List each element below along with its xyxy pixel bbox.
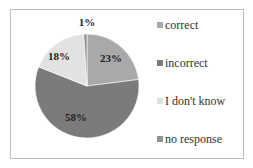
legend-label: I don't know	[165, 94, 225, 109]
legend-swatch	[157, 136, 163, 142]
legend-item-correct: correct	[157, 18, 198, 32]
legend-swatch	[157, 60, 163, 66]
slice-percent-label: 1%	[79, 16, 96, 28]
legend-swatch	[157, 22, 163, 28]
slice-percent-label: 23%	[100, 52, 122, 64]
legend-label: no response	[165, 132, 222, 147]
slice-percent-label: 18%	[48, 50, 70, 62]
slice-percent-label: 58%	[65, 111, 87, 123]
legend-item-incorrect: incorrect	[157, 56, 208, 70]
legend-swatch	[157, 98, 163, 104]
legend-item-no-response: no response	[157, 132, 222, 146]
legend-label: correct	[165, 18, 198, 33]
legend-label: incorrect	[165, 56, 208, 71]
legend-item-dont-know: I don't know	[157, 94, 225, 108]
